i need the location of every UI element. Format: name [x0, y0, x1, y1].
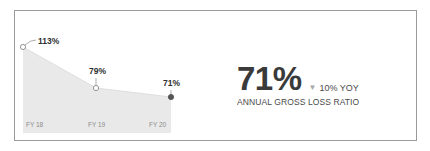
marker-fy20[interactable] — [168, 94, 173, 99]
data-label-fy20: 71% — [163, 78, 180, 88]
x-tick-fy18: FY 18 — [26, 121, 44, 128]
marker-fy19[interactable] — [93, 85, 98, 90]
x-tick-fy19: FY 19 — [88, 121, 106, 128]
leader-line-fy18 — [25, 40, 36, 45]
down-arrow-icon: ▼ — [309, 83, 317, 92]
kpi-change: ▼ 10% YOY — [309, 83, 359, 93]
kpi-row: 71% ▼ 10% YOY — [237, 64, 359, 94]
data-label-fy19: 79% — [89, 66, 106, 76]
kpi-change-text: 10% YOY — [319, 83, 358, 93]
x-tick-fy20: FY 20 — [149, 121, 167, 128]
loss-ratio-area-chart: 113% 79% 71% FY 18 FY 19 FY 20 — [0, 0, 430, 151]
data-label-fy18: 113% — [38, 36, 60, 46]
kpi-block: 71% ▼ 10% YOY ANNUAL GROSS LOSS RATIO — [237, 64, 359, 107]
kpi-label: ANNUAL GROSS LOSS RATIO — [237, 97, 359, 107]
kpi-value: 71% — [237, 64, 302, 94]
marker-fy18[interactable] — [20, 44, 25, 49]
